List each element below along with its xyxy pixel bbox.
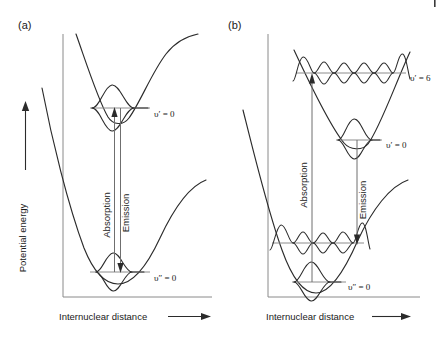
- panel-a-tag: (a): [18, 19, 31, 31]
- panel-b-tag: (b): [228, 19, 241, 31]
- franck-condon-figure: (a) Potential energy Internuclear distan…: [0, 0, 448, 339]
- panel-a-y-axis-label: Potential energy: [17, 203, 28, 272]
- panel-b-v0-lower-level-label: υ″ = 0: [348, 282, 371, 292]
- panel-b-v6-level-label: υ′ = 6: [410, 73, 431, 83]
- panel-a-lower-level-label: υ″ = 0: [154, 273, 177, 283]
- panel-a-emission-label: Emission: [120, 194, 131, 233]
- panel-b-absorption-label: Absorption: [298, 162, 309, 207]
- scan-edge-mark: [434, 0, 436, 7]
- panel-b-v0-upper-level-label: υ′ = 0: [386, 140, 407, 150]
- panel-b-x-axis-label: Internuclear distance: [266, 311, 354, 322]
- panel-b-emission-label: Emission: [357, 181, 368, 220]
- figure-background: [0, 0, 448, 339]
- panel-a-absorption-label: Absorption: [101, 192, 112, 237]
- panel-a-x-axis-label: Internuclear distance: [59, 311, 147, 322]
- panel-a-upper-level-label: υ′ = 0: [154, 109, 175, 119]
